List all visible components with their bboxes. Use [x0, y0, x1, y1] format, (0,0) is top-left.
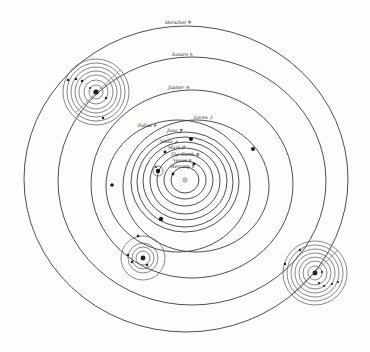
label-ceres: Ceres ⚳ — [194, 115, 213, 120]
svg-text:The Earth ⊕: The Earth ⊕ — [171, 152, 200, 157]
svg-text:Ceres ⚳: Ceres ⚳ — [194, 115, 213, 120]
label-saturn: Saturn ♄ — [172, 52, 193, 57]
svg-text:Pallas ⚴: Pallas ⚴ — [137, 123, 157, 128]
label-venus: Venus ♀ — [173, 158, 192, 163]
orbit-herschel — [24, 26, 348, 332]
label-pallas: Pallas ⚴ — [137, 123, 157, 128]
planet-pallas — [110, 183, 114, 187]
jupiter-system — [121, 235, 165, 280]
planet-ceres — [251, 147, 255, 151]
label-jupiter: Jupiter ♃ — [167, 85, 190, 90]
planet-mars — [164, 151, 167, 154]
label-juno: Juno ⚵ — [166, 128, 183, 133]
label-herschel: Herschel ♅ — [164, 20, 192, 25]
orbit-ceres — [123, 120, 269, 252]
label-mercury: Mercury ☿ — [169, 164, 194, 170]
planet-vesta — [159, 217, 163, 221]
orbit-saturn — [58, 57, 326, 305]
planet-juno — [189, 137, 193, 141]
svg-text:Vesta ⚶: Vesta ⚶ — [160, 139, 178, 144]
orbit-jupiter — [91, 90, 293, 278]
planet-venus — [193, 163, 196, 166]
saturn-system — [63, 59, 129, 125]
label-earth: The Earth ⊕ — [171, 152, 200, 157]
svg-text:Mars ♂: Mars ♂ — [167, 145, 186, 150]
svg-text:Mercury ☿: Mercury ☿ — [169, 164, 194, 170]
label-mars: Mars ♂ — [167, 145, 186, 150]
svg-text:Juno ⚵: Juno ⚵ — [166, 128, 183, 133]
planet-mercury — [172, 173, 175, 176]
svg-text:Venus ♀: Venus ♀ — [173, 158, 192, 163]
label-vesta: Vesta ⚶ — [160, 139, 178, 144]
solar-system-diagram: Herschel ♅ Saturn ♄ Jupiter ♃ Pallas ⚴ C… — [0, 0, 370, 352]
herschel-system — [283, 241, 347, 305]
svg-text:Herschel ♅: Herschel ♅ — [164, 20, 192, 25]
sun — [183, 178, 187, 182]
svg-text:Saturn ♄: Saturn ♄ — [172, 52, 193, 57]
svg-text:Jupiter ♃: Jupiter ♃ — [167, 85, 190, 90]
